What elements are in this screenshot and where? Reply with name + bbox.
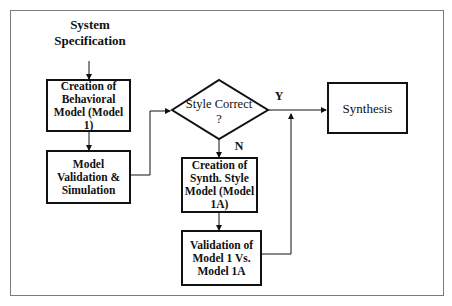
title-line-1: System	[45, 17, 135, 33]
synth-style-model-box: Creation of Synth. Style Model (Model 1A…	[181, 157, 258, 213]
behavioral-model-label: Creation of Behavioral Model (Model 1)	[48, 80, 129, 132]
title-line-2: Specification	[45, 33, 135, 49]
synthesis-label: Synthesis	[343, 102, 393, 115]
model-validation-box: Model Validation & Simulation	[46, 150, 131, 204]
system-specification-label: System Specification	[45, 17, 135, 49]
yes-label: Y	[272, 90, 286, 103]
decision-label: Style Correct ?	[185, 97, 253, 127]
synthesis-box: Synthesis	[327, 82, 408, 134]
validation-1-vs-1a-label: Validation of Model 1 Vs. Model 1A	[183, 239, 260, 278]
synth-style-model-label: Creation of Synth. Style Model (Model 1A…	[183, 159, 256, 211]
no-label: N	[232, 140, 246, 153]
validation-1-vs-1a-box: Validation of Model 1 Vs. Model 1A	[181, 230, 262, 286]
model-validation-label: Model Validation & Simulation	[48, 158, 129, 197]
behavioral-model-box: Creation of Behavioral Model (Model 1)	[46, 79, 131, 132]
